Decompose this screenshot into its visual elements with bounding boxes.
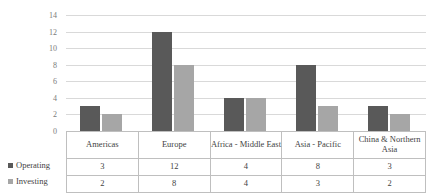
bar-chart-with-data-table: 14121086420 AmericasEuropeAfrica - Middl…	[0, 0, 439, 194]
y-axis-tick-2: 2	[53, 110, 57, 119]
category-label-cell: Asia - Pacific	[282, 132, 354, 159]
legend-item-label: Investing	[16, 176, 48, 186]
bar-operating	[80, 106, 100, 131]
y-axis-tick-8: 8	[53, 60, 57, 69]
value-cell: 8	[282, 159, 354, 176]
data-table: AmericasEuropeAfrica - Middle EastAsia -…	[66, 131, 426, 193]
value-cell: 4	[210, 176, 282, 193]
table-row: AmericasEuropeAfrica - Middle EastAsia -…	[67, 132, 426, 159]
y-axis-tick-6: 6	[53, 77, 57, 86]
legend-swatch-icon	[8, 163, 13, 168]
bar-group	[210, 15, 282, 131]
bar-operating	[152, 32, 172, 131]
legend-item-investing[interactable]: Investing	[8, 173, 66, 189]
y-axis-tick-0: 0	[53, 127, 57, 136]
category-label-cell: Europe	[138, 132, 210, 159]
y-axis-tick-4: 4	[53, 93, 57, 102]
bar-group	[282, 15, 354, 131]
bar-investing	[318, 106, 338, 131]
value-cell: 3	[67, 159, 139, 176]
category-label-cell: Americas	[67, 132, 139, 159]
bars-layer	[66, 15, 426, 131]
data-table-body: AmericasEuropeAfrica - Middle EastAsia -…	[67, 132, 426, 193]
bar-group	[138, 15, 210, 131]
legend: OperatingInvesting	[8, 157, 66, 189]
bar-investing	[246, 98, 266, 131]
value-cell: 2	[67, 176, 139, 193]
bar-group	[66, 15, 138, 131]
value-cell: 3	[354, 159, 426, 176]
value-cell: 3	[282, 176, 354, 193]
category-label-cell: Africa - Middle East	[210, 132, 282, 159]
y-axis-tick-14: 14	[49, 11, 57, 20]
value-cell: 2	[354, 176, 426, 193]
category-label-cell: China & Northern Asia	[354, 132, 426, 159]
table-row: 28432	[67, 176, 426, 193]
bar-operating	[368, 106, 388, 131]
value-cell: 4	[210, 159, 282, 176]
legend-swatch-icon	[8, 179, 13, 184]
y-axis-tick-10: 10	[49, 44, 57, 53]
legend-item-operating[interactable]: Operating	[8, 157, 66, 173]
value-cell: 8	[138, 176, 210, 193]
value-cell: 12	[138, 159, 210, 176]
bar-investing	[102, 114, 122, 131]
bar-group	[354, 15, 426, 131]
bar-investing	[390, 114, 410, 131]
y-axis: 14121086420	[0, 15, 62, 131]
bar-investing	[174, 65, 194, 131]
table-row: 312483	[67, 159, 426, 176]
y-axis-tick-12: 12	[49, 27, 57, 36]
bar-operating	[224, 98, 244, 131]
legend-item-label: Operating	[16, 160, 50, 170]
bar-operating	[296, 65, 316, 131]
